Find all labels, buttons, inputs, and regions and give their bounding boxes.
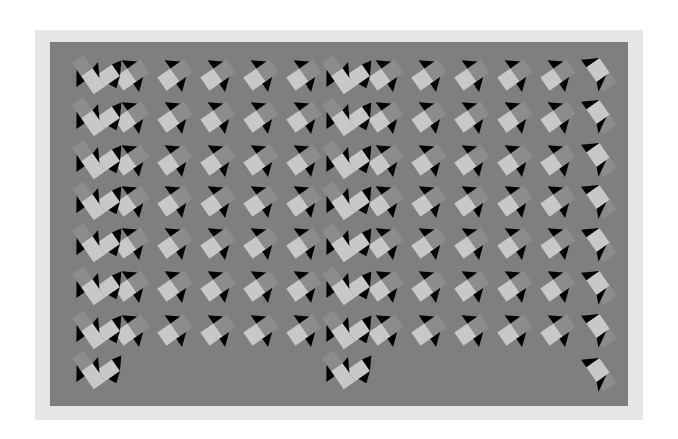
tile-unit — [406, 306, 453, 354]
tile-unit — [449, 93, 496, 141]
tile-unit — [238, 262, 285, 310]
tile-unit — [152, 51, 199, 99]
tile-unit — [195, 219, 242, 267]
tile-unit — [492, 306, 539, 354]
tile-unit — [152, 306, 199, 354]
right-column-unit — [578, 178, 617, 221]
tile-unit — [535, 306, 582, 354]
tile-unit — [281, 136, 328, 184]
tile-unit — [195, 306, 242, 354]
tile-unit — [406, 93, 453, 141]
tile-unit — [195, 262, 242, 310]
tile-unit — [535, 136, 582, 184]
tile-unit — [449, 219, 496, 267]
tile-unit — [406, 262, 453, 310]
tile-unit — [535, 262, 582, 310]
tile-unit — [238, 306, 285, 354]
tile-unit — [535, 51, 582, 99]
tile-unit — [492, 51, 539, 99]
tile-unit — [195, 177, 242, 225]
tile-unit — [238, 136, 285, 184]
column-unit — [314, 81, 383, 149]
column-unit — [314, 294, 383, 362]
tile-unit — [535, 93, 582, 141]
tile-unit — [281, 306, 328, 354]
tile-unit — [281, 177, 328, 225]
right-column-unit — [578, 351, 617, 394]
tile-unit — [152, 177, 199, 225]
tile-unit — [406, 136, 453, 184]
tile-unit — [449, 51, 496, 99]
right-column-unit — [578, 93, 617, 136]
tile-unit — [492, 219, 539, 267]
right-column-unit — [578, 136, 617, 179]
tile-unit — [535, 219, 582, 267]
tile-unit — [238, 219, 285, 267]
tile-unit — [195, 93, 242, 141]
tile-unit — [152, 136, 199, 184]
column-unit — [314, 39, 383, 107]
tile-unit — [406, 51, 453, 99]
tile-unit — [281, 262, 328, 310]
tile-unit — [492, 93, 539, 141]
right-column-unit — [578, 51, 617, 94]
tile-unit — [406, 177, 453, 225]
tile-unit — [492, 136, 539, 184]
column-unit — [314, 250, 383, 318]
tile-unit — [238, 51, 285, 99]
tile-unit — [492, 177, 539, 225]
tile-unit — [281, 51, 328, 99]
tile-unit — [281, 93, 328, 141]
tile-unit — [152, 219, 199, 267]
column-unit — [314, 207, 383, 275]
tile-unit — [406, 219, 453, 267]
tile-unit — [238, 177, 285, 225]
right-column-unit — [578, 307, 617, 350]
illusion-pattern — [0, 0, 678, 439]
tile-unit — [492, 262, 539, 310]
tile-unit — [195, 51, 242, 99]
tile-unit — [449, 136, 496, 184]
tile-unit — [195, 136, 242, 184]
column-unit — [314, 124, 383, 192]
tile-unit — [281, 219, 328, 267]
tile-unit — [238, 93, 285, 141]
tile-unit — [152, 262, 199, 310]
tile-unit — [535, 177, 582, 225]
right-column-unit — [578, 221, 617, 264]
tile-unit — [152, 93, 199, 141]
tile-unit — [449, 177, 496, 225]
tile-unit — [449, 262, 496, 310]
right-column-unit — [578, 264, 617, 307]
tile-unit — [449, 306, 496, 354]
